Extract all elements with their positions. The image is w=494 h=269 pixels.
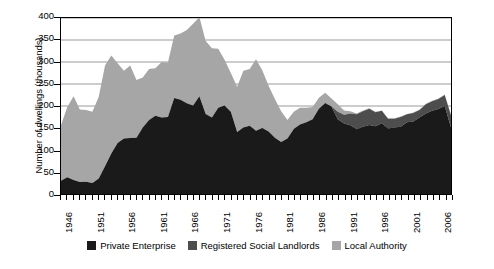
x-tick-mark [130,195,131,200]
x-tick-mark [364,195,365,200]
x-tick-mark [319,195,320,200]
x-tick-mark [326,195,327,200]
x-tick-mark [60,195,61,200]
x-tick-mark [161,195,162,200]
x-tick-mark [73,195,74,200]
x-tick-mark [104,195,105,200]
x-tick-mark [79,195,80,200]
legend-swatch-icon [188,241,197,250]
x-tick-mark [180,195,181,200]
legend-label: Local Authority [345,240,407,251]
x-tick-mark [212,195,213,200]
x-tick-mark [338,195,339,200]
stacked-area-svg [61,18,451,194]
x-tick-mark [262,195,263,200]
chart-legend: Private EnterpriseRegistered Social Land… [0,240,494,251]
legend-swatch-icon [87,241,96,250]
x-tick-label: 1996 [380,212,390,233]
x-tick-mark [243,195,244,200]
x-tick-mark [250,195,251,200]
x-tick-mark [117,195,118,200]
x-tick-mark [149,195,150,200]
x-tick-label: 1981 [285,212,295,233]
x-tick-label: 1971 [222,212,232,233]
x-tick-mark [446,195,447,200]
x-tick-mark [269,195,270,200]
x-tick-mark [414,195,415,200]
x-tick-mark [383,195,384,200]
x-tick-mark [199,195,200,200]
x-tick-label: 1976 [254,212,264,233]
x-tick-mark [313,195,314,200]
x-tick-mark [433,195,434,200]
x-tick-mark [389,195,390,200]
chart-figure: Number of dwellings (thousands) 05010015… [0,0,494,269]
x-tick-mark [205,195,206,200]
legend-item[interactable]: Private Enterprise [87,240,176,251]
legend-item[interactable]: Local Authority [332,240,407,251]
x-tick-label: 1991 [349,212,359,233]
x-tick-mark [187,195,188,200]
x-tick-label: 1986 [317,212,327,233]
x-tick-mark [142,195,143,200]
x-tick-mark [427,195,428,200]
x-tick-label: 2001 [412,212,422,233]
x-tick-mark [168,195,169,200]
x-tick-label: 2006 [443,212,453,233]
x-axis-tick-labels: 1946195119561961196619711976198119861991… [60,201,452,237]
x-tick-mark [224,195,225,200]
x-tick-mark [332,195,333,200]
x-tick-mark [66,195,67,200]
legend-swatch-icon [332,241,341,250]
plot-area [60,17,452,195]
x-tick-mark [256,195,257,200]
x-tick-mark [275,195,276,200]
x-tick-mark [452,195,453,200]
x-tick-mark [376,195,377,200]
x-tick-mark [294,195,295,200]
x-tick-label: 1961 [159,212,169,233]
x-tick-mark [288,195,289,200]
x-tick-mark [351,195,352,200]
legend-label: Registered Social Landlords [201,240,320,251]
x-tick-label: 1946 [64,212,74,233]
x-tick-mark [92,195,93,200]
x-tick-label: 1956 [127,212,137,233]
x-tick-mark [155,195,156,200]
x-tick-mark [357,195,358,200]
x-tick-mark [300,195,301,200]
x-tick-mark [193,195,194,200]
x-tick-mark [281,195,282,200]
x-tick-mark [237,195,238,200]
x-tick-mark [439,195,440,200]
legend-item[interactable]: Registered Social Landlords [188,240,320,251]
x-tick-label: 1966 [190,212,200,233]
x-tick-mark [395,195,396,200]
x-tick-mark [111,195,112,200]
x-tick-mark [174,195,175,200]
x-tick-mark [123,195,124,200]
x-tick-mark [85,195,86,200]
x-tick-mark [408,195,409,200]
x-tick-mark [98,195,99,200]
x-tick-mark [307,195,308,200]
x-tick-mark [218,195,219,200]
x-tick-mark [136,195,137,200]
x-tick-mark [231,195,232,200]
legend-label: Private Enterprise [100,240,176,251]
x-tick-mark [370,195,371,200]
x-tick-mark [345,195,346,200]
x-tick-mark [401,195,402,200]
x-tick-label: 1951 [96,212,106,233]
x-tick-mark [420,195,421,200]
y-axis-title: Number of dwellings (thousands) [33,6,44,206]
